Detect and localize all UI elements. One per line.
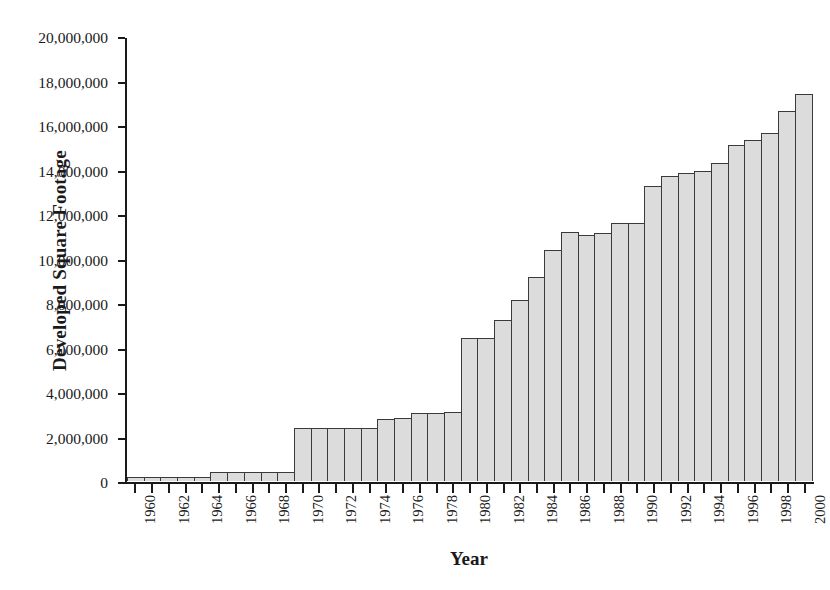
y-axis-tick-mark (118, 215, 125, 217)
x-axis-tick-label (746, 495, 763, 541)
y-axis-tick-mark (118, 126, 125, 128)
y-axis-tick-label: 16,000,000 (0, 119, 108, 135)
x-axis-tick-mark (211, 484, 228, 493)
bar (661, 176, 679, 481)
bar (544, 250, 562, 481)
y-axis-tick-labels: 02,000,0004,000,0006,000,0008,000,00010,… (0, 38, 108, 483)
x-axis-tick-label: 1986 (562, 495, 579, 541)
x-axis-tick-label: 1968 (261, 495, 278, 541)
x-axis-tick-mark (194, 484, 211, 493)
x-axis-tick-mark (646, 484, 663, 493)
y-axis-tick-mark (118, 260, 125, 262)
x-axis-tick-label: 1992 (663, 495, 680, 541)
plot-area (125, 38, 813, 483)
y-axis-tick-mark (118, 82, 125, 84)
x-axis-tick-label (545, 495, 562, 541)
x-axis-tick-mark (345, 484, 362, 493)
bar (494, 320, 512, 481)
x-axis-tick-label (177, 495, 194, 541)
x-axis-tick-mark (462, 484, 479, 493)
x-axis-tick-label: 1996 (729, 495, 746, 541)
bar (377, 419, 395, 481)
y-axis-tick-mark (118, 482, 125, 484)
x-axis-tick-label (345, 495, 362, 541)
y-axis-tick-label: 2,000,000 (0, 431, 108, 447)
y-axis-tick-label: 8,000,000 (0, 297, 108, 313)
bar (444, 412, 462, 481)
bar (778, 111, 796, 481)
x-axis-tick-mark (796, 484, 813, 493)
bar (628, 223, 646, 481)
x-axis-tick-label (713, 495, 730, 541)
bar (311, 428, 329, 481)
y-axis-tick-mark (118, 349, 125, 351)
x-axis-tick-label (411, 495, 428, 541)
bar (394, 418, 412, 481)
x-axis-tick-mark (529, 484, 546, 493)
x-axis-tick-label: 1978 (428, 495, 445, 541)
x-axis-tick-mark (596, 484, 613, 493)
x-axis-tick-label: 1976 (395, 495, 412, 541)
y-axis-tick-label: 4,000,000 (0, 386, 108, 402)
x-axis-tick-mark (378, 484, 395, 493)
bar (294, 428, 312, 481)
x-axis-tick-marks (127, 484, 813, 493)
bar (127, 477, 145, 481)
x-axis-tick-mark (545, 484, 562, 493)
x-axis-tick-label: 1994 (696, 495, 713, 541)
y-axis-tick-label: 12,000,000 (0, 208, 108, 224)
bar (227, 472, 245, 481)
y-axis-tick-mark (118, 393, 125, 395)
y-axis-tick-mark (118, 37, 125, 39)
x-axis-tick-labels: 1960196219641966196819701972197419761978… (127, 495, 813, 541)
bar (461, 338, 479, 481)
bar (327, 428, 345, 481)
x-axis-tick-mark (579, 484, 596, 493)
bar (427, 413, 445, 481)
y-axis-tick-label: 6,000,000 (0, 342, 108, 358)
x-axis-tick-label (445, 495, 462, 541)
x-axis-tick-label (311, 495, 328, 541)
x-axis-tick-label: 1984 (529, 495, 546, 541)
y-axis-tick-label: 10,000,000 (0, 253, 108, 269)
x-axis-tick-mark (160, 484, 177, 493)
bar (611, 223, 629, 481)
x-axis-tick-mark (261, 484, 278, 493)
bar (728, 145, 746, 481)
x-axis-tick-mark (663, 484, 680, 493)
x-axis-tick-mark (696, 484, 713, 493)
x-axis-tick-label (278, 495, 295, 541)
x-axis-tick-label (646, 495, 663, 541)
bar (795, 94, 813, 481)
x-axis-tick-mark (411, 484, 428, 493)
y-axis-tick-mark (118, 304, 125, 306)
bar (644, 186, 662, 481)
x-axis-tick-mark (127, 484, 144, 493)
y-axis-tick-mark (118, 438, 125, 440)
x-axis-tick-mark (713, 484, 730, 493)
x-axis-tick-label (512, 495, 529, 541)
x-axis-tick-mark (227, 484, 244, 493)
x-axis-tick-label (378, 495, 395, 541)
bar (194, 477, 212, 481)
x-axis-tick-mark (311, 484, 328, 493)
x-axis-tick-label: 1998 (763, 495, 780, 541)
x-axis-tick-mark (328, 484, 345, 493)
bar (261, 472, 279, 481)
bar (678, 173, 696, 481)
x-axis-tick-label: 1970 (294, 495, 311, 541)
bar (694, 171, 712, 481)
bar (561, 232, 579, 481)
x-axis-tick-label: 1966 (227, 495, 244, 541)
x-axis-tick-mark (629, 484, 646, 493)
x-axis-tick-mark (495, 484, 512, 493)
bar (578, 235, 596, 481)
x-axis-tick-mark (244, 484, 261, 493)
x-axis-tick-label: 1964 (194, 495, 211, 541)
x-axis-tick-label: 1988 (596, 495, 613, 541)
x-axis-tick-mark (612, 484, 629, 493)
x-axis-tick-mark (177, 484, 194, 493)
bar (160, 477, 178, 481)
x-axis-tick-mark (746, 484, 763, 493)
x-axis-tick-label (244, 495, 261, 541)
